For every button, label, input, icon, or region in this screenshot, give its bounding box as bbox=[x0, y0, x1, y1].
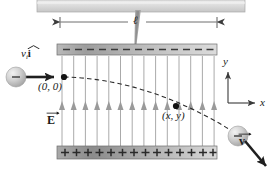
unit-vector-hat-icon bbox=[27, 45, 40, 50]
vector-arrow-icon bbox=[46, 110, 60, 115]
unit-vector-i: i bbox=[28, 48, 31, 59]
field-point-label: (x, y) bbox=[162, 110, 185, 121]
dimension-label: ℓ bbox=[133, 15, 138, 26]
electric-field-lines bbox=[59, 56, 217, 146]
final-velocity-label: v bbox=[239, 135, 245, 147]
origin-label: (0, 0) bbox=[38, 81, 62, 92]
y-axis-label: y bbox=[223, 56, 228, 67]
coordinate-axes bbox=[228, 72, 255, 103]
electric-field-label: E bbox=[47, 114, 55, 126]
vector-arrow-icon bbox=[238, 131, 252, 136]
mounting-bar bbox=[37, 0, 245, 12]
initial-velocity-label: vii bbox=[21, 48, 31, 61]
electric-field-deflection-figure: ℓ vii (0, 0) (x, y) E v y x bbox=[0, 0, 274, 177]
x-axis-label: x bbox=[260, 97, 265, 108]
field-arrowheads bbox=[59, 101, 217, 110]
positive-plate bbox=[57, 146, 217, 159]
final-velocity-arrow bbox=[245, 141, 266, 166]
velocity-vector-v: v bbox=[239, 135, 245, 147]
negative-plate bbox=[57, 44, 217, 55]
field-vector-E: E bbox=[47, 114, 55, 126]
incoming-electron bbox=[6, 67, 26, 87]
